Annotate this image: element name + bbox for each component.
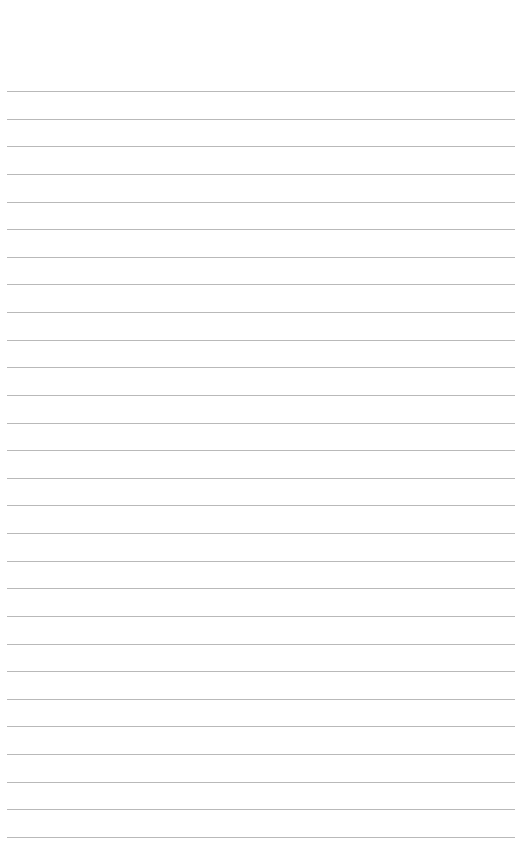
ruled-line — [7, 229, 515, 230]
ruled-line — [7, 367, 515, 368]
ruled-line — [7, 202, 515, 203]
ruled-line — [7, 782, 515, 783]
ruled-line — [7, 423, 515, 424]
ruled-line — [7, 340, 515, 341]
ruled-line — [7, 644, 515, 645]
lined-paper-page — [0, 0, 518, 866]
ruled-line — [7, 699, 515, 700]
ruled-line — [7, 726, 515, 727]
ruled-line — [7, 616, 515, 617]
ruled-line — [7, 146, 515, 147]
ruled-line — [7, 395, 515, 396]
ruled-line — [7, 754, 515, 755]
ruled-line — [7, 505, 515, 506]
ruled-line — [7, 561, 515, 562]
ruled-line — [7, 837, 515, 838]
ruled-line — [7, 809, 515, 810]
ruled-line — [7, 450, 515, 451]
ruled-line — [7, 257, 515, 258]
ruled-line — [7, 312, 515, 313]
ruled-line — [7, 671, 515, 672]
ruled-line — [7, 478, 515, 479]
ruled-line — [7, 119, 515, 120]
ruled-line — [7, 91, 515, 92]
ruled-line — [7, 284, 515, 285]
ruled-line — [7, 588, 515, 589]
ruled-line — [7, 533, 515, 534]
ruled-line — [7, 174, 515, 175]
